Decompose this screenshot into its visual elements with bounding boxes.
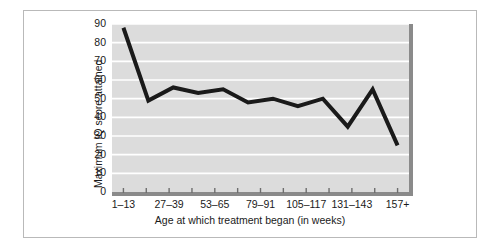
plot-area-group	[112, 24, 413, 196]
plot-background	[112, 24, 409, 194]
plot-right-edge-bar	[409, 24, 413, 196]
x-axis-line	[112, 192, 413, 196]
iq-score-line-chart	[0, 0, 500, 249]
y-axis-title: Maximum IQ score attained	[92, 60, 104, 188]
y-axis-tick-label: 80	[88, 36, 106, 48]
y-axis-tick-label: 90	[88, 17, 106, 29]
x-axis-title: Age at which treatment began (in weeks)	[0, 214, 500, 226]
x-axis-tick-label: 157+	[368, 198, 428, 210]
